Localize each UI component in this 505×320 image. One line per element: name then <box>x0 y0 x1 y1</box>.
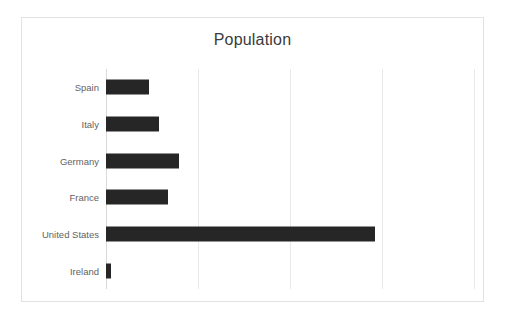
category-label: United States <box>42 228 99 239</box>
bar-row: Spain <box>106 69 474 106</box>
bars-layer: SpainItalyGermanyFranceUnited StatesIrel… <box>106 69 474 289</box>
chart-frame: Population SpainItalyGermanyFranceUnited… <box>21 17 484 302</box>
category-label: Germany <box>60 155 99 166</box>
bar-row: France <box>106 179 474 216</box>
bar-row: Germany <box>106 142 474 179</box>
bar-row: Ireland <box>106 252 474 289</box>
category-label: France <box>69 192 99 203</box>
plot-area: SpainItalyGermanyFranceUnited StatesIrel… <box>106 69 474 289</box>
bar-row: United States <box>106 216 474 253</box>
category-label: Italy <box>82 118 99 129</box>
bar[interactable] <box>106 80 149 95</box>
category-label: Spain <box>75 82 99 93</box>
bar[interactable] <box>106 263 111 278</box>
gridline-400 <box>474 69 475 289</box>
bar[interactable] <box>106 190 168 205</box>
bar[interactable] <box>106 116 159 131</box>
bar[interactable] <box>106 153 179 168</box>
bar-row: Italy <box>106 106 474 143</box>
category-label: Ireland <box>70 265 99 276</box>
bar[interactable] <box>106 226 375 241</box>
chart-title: Population <box>22 31 483 49</box>
